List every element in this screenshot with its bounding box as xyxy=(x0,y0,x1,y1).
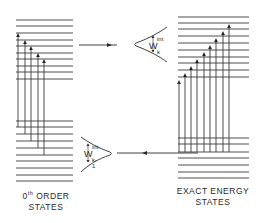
exact-energy-levels xyxy=(178,17,249,178)
arrowhead-icon xyxy=(221,31,225,35)
top-width-label: Wintk xyxy=(149,42,158,51)
order-word: ORDER xyxy=(33,191,69,201)
zeroth-order-label: 0th ORDER STATES xyxy=(15,188,77,213)
arrowhead-icon xyxy=(214,38,218,42)
top-transfer-arrow xyxy=(79,43,117,47)
arrowhead-icon xyxy=(16,33,20,37)
width-subscript: k xyxy=(157,49,160,55)
arrowhead-icon xyxy=(189,66,193,70)
width-subscript: k-1 xyxy=(92,157,97,169)
bottom-width-label: Wintk-1 xyxy=(84,150,93,159)
zeroth-order-label-line1: 0th ORDER xyxy=(15,188,77,202)
zeroth-order-label-line2: STATES xyxy=(15,202,77,213)
arrowhead-icon xyxy=(177,80,181,84)
arrowhead-icon xyxy=(36,53,40,57)
arrowhead-icon xyxy=(29,46,33,50)
exact-energy-label-line2: STATES xyxy=(172,197,254,208)
energy-level-diagram: Wintk Wintk-1 0th ORDER STATES EXACT ENE… xyxy=(0,0,274,223)
arrowhead-icon xyxy=(23,40,27,44)
zeroth-order-excitation-arrows xyxy=(16,33,46,155)
arrowhead-icon xyxy=(208,45,212,49)
exact-energy-label-line1: EXACT ENERGY xyxy=(172,186,254,197)
width-superscript: int xyxy=(92,144,98,150)
width-superscript: int xyxy=(157,36,163,42)
arrowhead-icon xyxy=(183,73,187,77)
arrowhead-icon xyxy=(227,24,231,28)
arrowhead-icon xyxy=(202,52,206,56)
arrowhead-icon xyxy=(195,59,199,63)
arrowhead-icon xyxy=(42,59,46,63)
exact-energy-label: EXACT ENERGY STATES xyxy=(172,186,254,208)
